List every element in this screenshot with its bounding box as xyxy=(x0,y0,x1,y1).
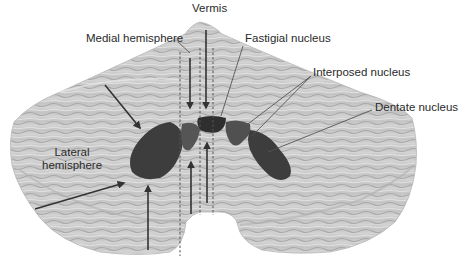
label-lateral-line1: Lateral xyxy=(42,146,102,159)
label-vermis: Vermis xyxy=(192,2,227,15)
label-interposed-nucleus: Interposed nucleus xyxy=(313,66,410,79)
label-lateral-line2: hemisphere xyxy=(42,159,102,172)
diagram-canvas xyxy=(0,0,460,267)
label-dentate-nucleus: Dentate nucleus xyxy=(375,101,458,114)
label-lateral-hemisphere: Lateral hemisphere xyxy=(42,146,102,172)
label-medial-hemisphere: Medial hemisphere xyxy=(86,32,183,45)
cerebellum-diagram: Vermis Medial hemisphere Fastigial nucle… xyxy=(0,0,460,267)
label-fastigial-nucleus: Fastigial nucleus xyxy=(245,32,331,45)
